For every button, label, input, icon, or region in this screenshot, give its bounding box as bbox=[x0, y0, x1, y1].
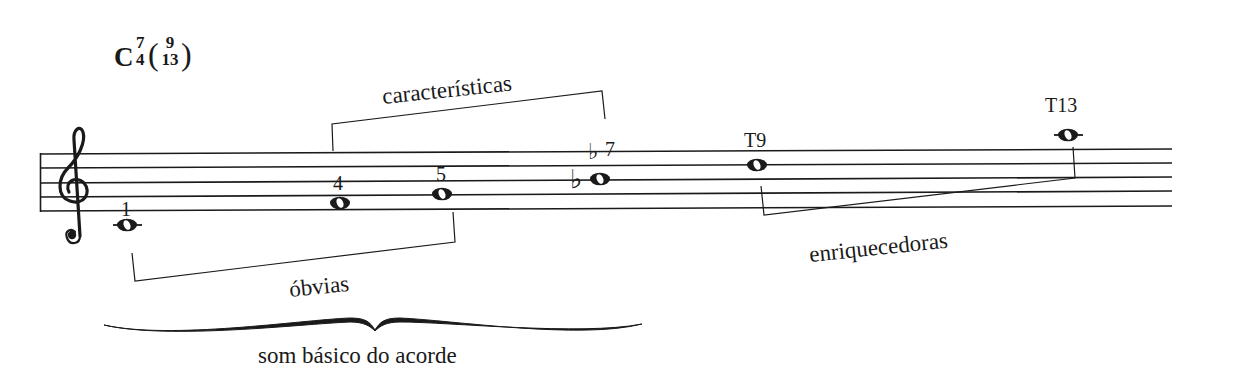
treble-clef-icon bbox=[60, 128, 87, 243]
note-label-t9: T9 bbox=[744, 129, 766, 151]
note-a-thirteenth: T13 bbox=[1045, 94, 1083, 141]
note-label-7: 7 bbox=[605, 138, 615, 160]
group-label-caracteristicas: características bbox=[381, 70, 513, 108]
bracket-enriquecedoras bbox=[761, 147, 1075, 215]
note-label-1: 1 bbox=[121, 198, 131, 220]
note-label-flat: ♭ bbox=[588, 139, 598, 164]
note-label-4: 4 bbox=[333, 172, 343, 194]
music-staff-diagram: 1 4 5 ♭ ♭ 7 T9 T13 características bbox=[0, 0, 1239, 389]
note-f-fourth: 4 bbox=[330, 172, 350, 209]
group-label-basico: som básico do acorde bbox=[258, 343, 457, 368]
staff-line-2 bbox=[40, 163, 1172, 168]
bracket-obvias bbox=[132, 212, 455, 281]
note-c-root: 1 bbox=[113, 198, 142, 231]
note-label-5: 5 bbox=[436, 163, 446, 185]
group-label-enriquecedoras: enriquecedoras bbox=[808, 228, 949, 267]
flat-icon: ♭ bbox=[570, 165, 582, 194]
curly-brace-basico bbox=[104, 318, 642, 331]
note-label-t13: T13 bbox=[1045, 94, 1077, 116]
staff-line-4 bbox=[40, 191, 1172, 197]
staff-line-5 bbox=[40, 206, 1172, 211]
note-d-ninth: T9 bbox=[744, 129, 767, 171]
group-label-obvias: óbvias bbox=[288, 271, 350, 302]
